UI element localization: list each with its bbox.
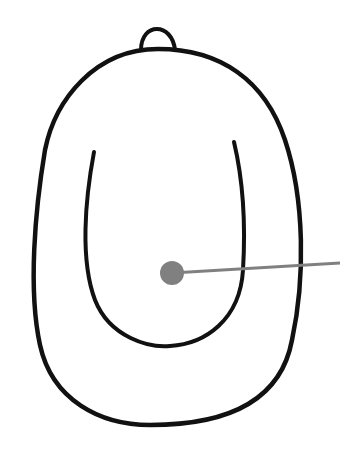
pointer-line	[172, 263, 340, 273]
pointer-dot	[160, 261, 184, 285]
backpack-diagram	[0, 0, 340, 453]
diagram-canvas	[0, 0, 340, 453]
backpack-front-pocket	[85, 142, 244, 346]
backpack-outer-body	[34, 49, 301, 425]
